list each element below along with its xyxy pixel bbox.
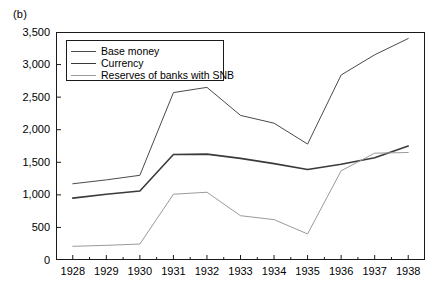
y-axis-tick-labels: 05001,0001,5002,0002,5003,0003,500 bbox=[0, 32, 50, 260]
x-axis-tick-label: 1935 bbox=[295, 266, 319, 277]
y-axis-tick-label: 0 bbox=[44, 255, 50, 266]
x-axis-tick-label: 1931 bbox=[161, 266, 185, 277]
y-axis-tick-label: 3,000 bbox=[22, 59, 50, 70]
legend-item: Currency bbox=[71, 57, 144, 69]
series-line bbox=[73, 153, 408, 247]
x-axis-tick-label: 1934 bbox=[262, 266, 286, 277]
y-axis-tick-label: 1,500 bbox=[22, 157, 50, 168]
x-axis-tick-label: 1938 bbox=[396, 266, 420, 277]
x-axis-tick-labels: 1928192919301931193219331934193519361937… bbox=[56, 264, 425, 280]
y-axis-tick-label: 2,500 bbox=[22, 92, 50, 103]
y-axis-tick-label: 3,500 bbox=[22, 27, 50, 38]
y-axis-tick-label: 500 bbox=[32, 222, 50, 233]
x-axis-tick-label: 1936 bbox=[329, 266, 353, 277]
x-axis-tick-label: 1929 bbox=[94, 266, 118, 277]
series-line bbox=[73, 146, 408, 198]
x-axis-tick-label: 1932 bbox=[195, 266, 219, 277]
y-axis-tick-label: 1,000 bbox=[22, 189, 50, 200]
legend-label: Reserves of banks with SNB bbox=[101, 70, 234, 81]
legend-item: Reserves of banks with SNB bbox=[71, 69, 234, 81]
legend-line-swatch bbox=[71, 51, 96, 52]
y-axis-tick-label: 2,000 bbox=[22, 124, 50, 135]
x-axis-tick-label: 1933 bbox=[228, 266, 252, 277]
legend-item: Base money bbox=[71, 45, 159, 57]
legend-label: Currency bbox=[101, 58, 144, 69]
chart-legend: Base moneyCurrencyReserves of banks with… bbox=[66, 40, 224, 81]
x-axis-tick-label: 1937 bbox=[362, 266, 386, 277]
figure-panel-b: (b) 05001,0001,5002,0002,5003,0003,500 1… bbox=[0, 0, 432, 296]
panel-label: (b) bbox=[13, 8, 27, 20]
x-axis-tick-label: 1930 bbox=[128, 266, 152, 277]
x-axis-tick-label: 1928 bbox=[61, 266, 85, 277]
legend-line-swatch bbox=[71, 75, 96, 76]
legend-line-swatch bbox=[71, 63, 96, 64]
legend-label: Base money bbox=[101, 46, 159, 57]
